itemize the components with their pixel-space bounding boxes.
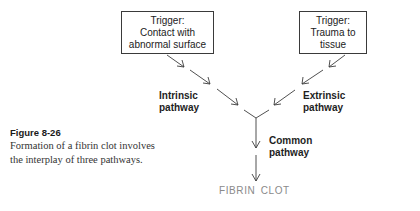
common-pathway-label: Common pathway [269,135,312,158]
caption-line-1: Formation of a fibrin clot involves [10,139,200,153]
common-line-1: Common [269,135,312,147]
extrinsic-line-1: Extrinsic [303,90,345,102]
trigger-right-line-1: Trigger: [316,15,350,27]
common-arrow [252,155,260,181]
trigger-box-trauma: Trigger: Trauma to tissue [299,11,367,54]
fibrin-clot-label: FIBRIN CLOT [219,185,290,196]
common-line-2: pathway [269,147,312,159]
extrinsic-line-2: pathway [303,102,345,114]
trigger-box-contact: Trigger: Contact with abnormal surface [121,11,214,54]
intrinsic-pathway-label: Intrinsic pathway [159,90,199,113]
intrinsic-line-2: pathway [159,102,199,114]
figure-number: Figure 8-26 [10,127,200,139]
trigger-left-line-1: Trigger: [150,15,184,27]
pathway-junction [244,110,269,148]
caption-line-2: the interplay of three pathways. [10,153,200,167]
intrinsic-line-1: Intrinsic [159,90,199,102]
trigger-left-line-3: abnormal surface [129,39,206,51]
caption-text: Formation of a fibrin clot involves the … [10,139,200,166]
trigger-right-line-2: Trauma to [310,27,355,39]
figure-caption: Figure 8-26 Formation of a fibrin clot i… [10,127,200,166]
extrinsic-pathway-label: Extrinsic pathway [303,90,345,113]
trigger-right-line-3: tissue [320,39,346,51]
trigger-left-line-2: Contact with [140,27,195,39]
